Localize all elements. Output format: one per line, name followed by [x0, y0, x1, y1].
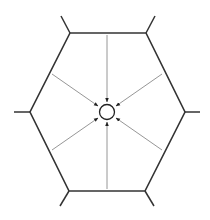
arrow	[116, 118, 162, 150]
center-circle	[100, 105, 115, 120]
hexagon-diagram	[0, 0, 210, 220]
arrow	[116, 74, 162, 106]
arrow	[52, 118, 98, 150]
hexagon-spoke	[146, 16, 155, 33]
arrow	[52, 74, 98, 106]
hexagon-spoke	[60, 191, 69, 206]
hexagon-spoke	[145, 191, 154, 206]
hexagon-spoke	[61, 16, 70, 33]
